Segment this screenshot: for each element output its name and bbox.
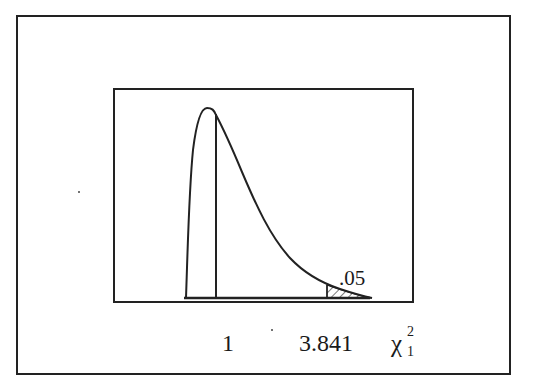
plot-frame	[114, 89, 413, 302]
tail-area-label: .05	[339, 268, 365, 289]
x-tick-3841: 3.841	[299, 331, 353, 355]
speck	[271, 329, 273, 331]
chi-subscript: 1	[407, 345, 414, 359]
x-tick-1: 1	[222, 331, 234, 355]
chi-square-plot	[0, 0, 538, 384]
chi-symbol: χ	[391, 330, 402, 357]
chi-superscript: 2	[407, 325, 414, 339]
x-axis-label: χ 2 1	[391, 331, 402, 356]
speck	[78, 191, 80, 193]
